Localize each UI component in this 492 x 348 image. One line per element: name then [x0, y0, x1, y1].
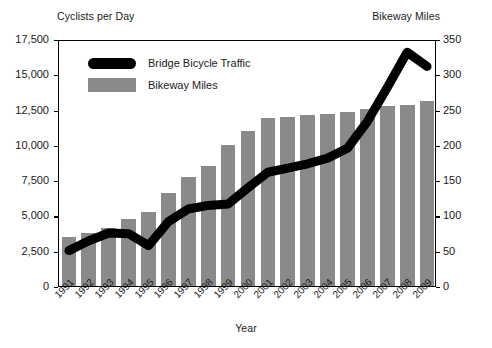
- tick-mark: [436, 146, 440, 147]
- right-tick-50: 50: [443, 246, 455, 257]
- left-tick-15000: 15,000: [15, 69, 49, 80]
- tick-mark: [436, 216, 440, 217]
- legend-item-bikeway-miles: Bikeway Miles: [88, 74, 288, 96]
- right-axis-title: Bikeway Miles: [372, 10, 440, 22]
- right-tick-150: 150: [443, 175, 461, 186]
- left-axis-title: Cyclists per Day: [57, 10, 134, 22]
- chart-legend: Bridge Bicycle Traffic Bikeway Miles: [88, 52, 288, 96]
- left-tick-12500: 12,500: [15, 105, 49, 116]
- tick-mark: [436, 75, 440, 76]
- left-tick-17500: 17,500: [15, 34, 49, 45]
- right-tick-100: 100: [443, 210, 461, 221]
- right-tick-350: 350: [443, 34, 461, 45]
- bar-swatch-icon: [88, 78, 136, 92]
- left-tick-10000: 10,000: [15, 140, 49, 151]
- left-tick-5000: 5,000: [21, 210, 49, 221]
- legend-label: Bridge Bicycle Traffic: [148, 57, 251, 69]
- legend-item-bridge-bicycle-traffic: Bridge Bicycle Traffic: [88, 52, 288, 74]
- tick-mark: [436, 287, 440, 288]
- tick-mark: [436, 252, 440, 253]
- left-tick-7500: 7,500: [21, 175, 49, 186]
- x-axis-title: Year: [0, 322, 492, 334]
- left-tick-2500: 2,500: [21, 246, 49, 257]
- bikeway-traffic-chart: Cyclists per Day Bikeway Miles 02,5005,0…: [0, 0, 492, 348]
- legend-label: Bikeway Miles: [148, 79, 218, 91]
- right-tick-200: 200: [443, 140, 461, 151]
- line-swatch-icon: [88, 58, 136, 69]
- right-tick-250: 250: [443, 105, 461, 116]
- right-tick-0: 0: [443, 281, 449, 292]
- tick-mark: [436, 111, 440, 112]
- x-tick-1991: 1991: [53, 277, 76, 300]
- tick-mark: [436, 181, 440, 182]
- right-tick-300: 300: [443, 69, 461, 80]
- left-tick-0: 0: [43, 281, 49, 292]
- tick-mark: [436, 40, 440, 41]
